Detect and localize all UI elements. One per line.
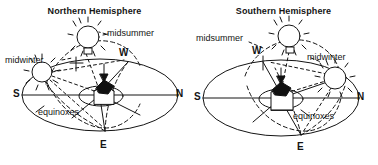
label-midsummer-northern: midsummer xyxy=(107,29,154,38)
label-equinoxes-southern: equinoxes xyxy=(293,112,334,121)
panel-southern-hemisphere: Southern Hemisphere xyxy=(189,0,378,165)
label-midwinter-southern: midwinter xyxy=(307,53,346,62)
midsummer-label-leader xyxy=(99,32,106,34)
label-west-northern: W xyxy=(119,48,128,58)
midwinter-sun-ray xyxy=(52,76,100,93)
sun-icon-midwinter xyxy=(315,58,355,97)
seasons-diagram-figure: Northern Hemisphere xyxy=(0,0,378,165)
panel-northern-hemisphere: Northern Hemisphere xyxy=(0,0,189,165)
midsummer-sun-ray xyxy=(84,48,100,92)
northern-hemisphere-drawing xyxy=(0,0,189,165)
label-east-southern: E xyxy=(297,142,304,152)
label-east-northern: E xyxy=(100,140,107,150)
label-south-southern: S xyxy=(194,92,201,102)
label-midsummer-southern: midsummer xyxy=(196,34,243,43)
sun-icon-midsummer xyxy=(269,16,309,55)
label-north-southern: N xyxy=(357,92,364,102)
midwinter-sun-ray-2 xyxy=(269,62,327,74)
label-west-southern: W xyxy=(252,46,261,56)
midwinter-arc xyxy=(247,86,341,131)
midwinter-label-leader xyxy=(62,58,72,60)
label-equinoxes-northern: equinoxes xyxy=(38,108,79,117)
label-midwinter-northern: midwinter xyxy=(5,56,44,65)
zenith-arrow-icon xyxy=(100,74,108,82)
label-north-northern: N xyxy=(176,89,183,99)
southern-hemisphere-drawing xyxy=(189,0,378,165)
sun-icon-midsummer xyxy=(68,17,108,56)
midwinter-sun-ray-2 xyxy=(52,60,124,72)
midwinter-sun-ray-3 xyxy=(303,88,331,132)
label-south-northern: S xyxy=(13,89,20,99)
zenith-arrow-icon xyxy=(277,76,285,84)
